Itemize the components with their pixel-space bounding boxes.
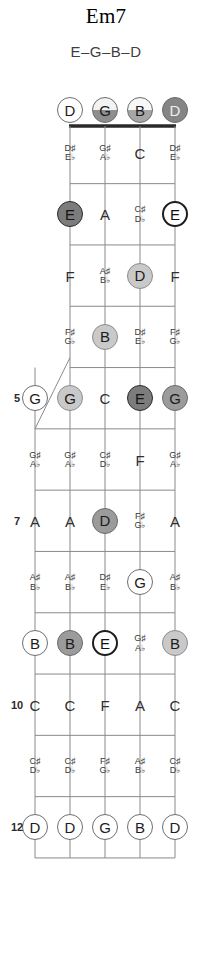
chord-tone-note[interactable]: G [57, 385, 83, 411]
note-label: F [120, 452, 160, 467]
note-label: A [155, 513, 195, 528]
chord-tone-note[interactable]: B [92, 324, 118, 350]
note-label-enharmonic: D♯E♭ [155, 144, 195, 163]
open-string-note[interactable]: B [127, 97, 153, 123]
note-label-enharmonic: C♯D♭ [85, 450, 125, 469]
chord-tone-note[interactable]: D [57, 814, 83, 840]
fret-number-5: 5 [14, 392, 20, 404]
note-label: A [15, 513, 55, 528]
note-label-enharmonic: D♯E♭ [120, 327, 160, 346]
note-label-enharmonic: G♯A♭ [120, 634, 160, 653]
note-label: A [120, 697, 160, 712]
chord-tone-note[interactable]: D [22, 814, 48, 840]
chord-tone-note[interactable]: G [162, 385, 188, 411]
note-label-enharmonic: F♯G♭ [120, 511, 160, 530]
chord-tone-note[interactable]: G [22, 385, 48, 411]
note-label-enharmonic: G♯A♭ [15, 450, 55, 469]
note-label-enharmonic: D♯E♭ [85, 573, 125, 592]
chord-tone-note[interactable]: G [127, 569, 153, 595]
note-label-enharmonic: G♯A♭ [50, 450, 90, 469]
chord-tone-note[interactable]: D [162, 814, 188, 840]
note-label-enharmonic: G♯A♭ [85, 144, 125, 163]
note-label-enharmonic: C♯D♭ [15, 757, 55, 776]
chord-tone-note[interactable]: D [92, 508, 118, 534]
note-label-enharmonic: F♯G♭ [50, 327, 90, 346]
chord-tone-note[interactable]: E [92, 630, 118, 656]
chord-tone-note[interactable]: B [162, 630, 188, 656]
note-label-enharmonic: D♯E♭ [50, 144, 90, 163]
note-label-enharmonic: A♯B♭ [50, 573, 90, 592]
note-label: F [85, 697, 125, 712]
note-label-enharmonic: A♯B♭ [15, 573, 55, 592]
open-string-note[interactable]: D [162, 97, 188, 123]
note-label-enharmonic: A♯B♭ [120, 757, 160, 776]
note-label: A [50, 513, 90, 528]
fretboard-diagram: DGBDD♯E♭G♯A♭CD♯E♭EAC♯D♭EFA♯B♭DFF♯G♭BD♯E♭… [0, 0, 212, 957]
note-label-enharmonic: F♯G♭ [155, 327, 195, 346]
note-label-enharmonic: G♯A♭ [155, 450, 195, 469]
note-label-enharmonic: C♯D♭ [155, 757, 195, 776]
chord-tone-note[interactable]: D [127, 263, 153, 289]
fret-number-10: 10 [11, 699, 23, 711]
note-label-enharmonic: F♯G♭ [85, 757, 125, 776]
fret-number-12: 12 [11, 821, 23, 833]
note-label-enharmonic: A♯B♭ [85, 266, 125, 285]
note-label-enharmonic: C♯D♭ [50, 757, 90, 776]
chord-tone-note[interactable]: E [127, 385, 153, 411]
chord-tone-note[interactable]: E [57, 201, 83, 227]
note-label: C [50, 697, 90, 712]
note-label: C [85, 391, 125, 406]
chord-tone-note[interactable]: B [22, 630, 48, 656]
note-label: C [120, 146, 160, 161]
note-label: A [85, 207, 125, 222]
note-label: F [50, 268, 90, 283]
chord-tone-note[interactable]: G [92, 814, 118, 840]
chord-tone-note[interactable]: E [162, 201, 188, 227]
chord-tone-note[interactable]: B [127, 814, 153, 840]
open-string-note[interactable]: D [57, 97, 83, 123]
note-label: F [155, 268, 195, 283]
fret-number-7: 7 [14, 515, 20, 527]
note-label-enharmonic: C♯D♭ [120, 205, 160, 224]
chord-tone-note[interactable]: B [57, 630, 83, 656]
note-label: C [155, 697, 195, 712]
note-label-enharmonic: A♯B♭ [155, 573, 195, 592]
open-string-note[interactable]: G [92, 97, 118, 123]
